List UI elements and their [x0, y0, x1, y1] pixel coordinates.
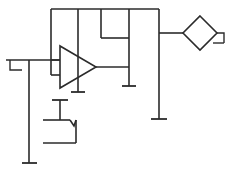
diamond-node[interactable] [183, 16, 217, 50]
diamond-body [183, 16, 217, 50]
vertical-drops [51, 9, 159, 119]
bracket-notch [70, 120, 76, 126]
triangle-amplifier[interactable] [51, 46, 96, 88]
terminal-right-stub [217, 33, 224, 43]
u-bracket-element[interactable] [43, 100, 76, 143]
terminal-left-stub [10, 60, 22, 70]
schematic-canvas: Amplifier schematic fragment [0, 0, 227, 170]
ground-wire [22, 60, 37, 163]
schematic-drawing [0, 0, 227, 170]
terminal-left-input[interactable] [10, 60, 22, 70]
